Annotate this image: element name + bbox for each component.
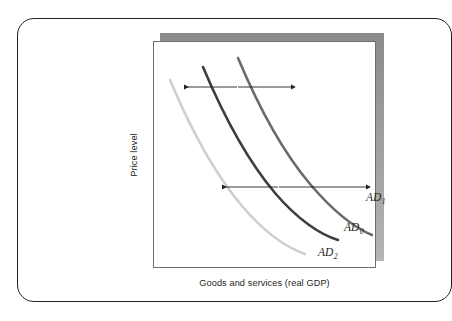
- ad1-label-text: AD: [366, 191, 381, 203]
- ad2-label: AD2: [318, 247, 337, 259]
- ad2-label-text: AD: [318, 246, 333, 258]
- ad1-label: AD1: [366, 192, 385, 204]
- shift-arrow-group: [184, 87, 366, 187]
- ad1-label-subscript: 1: [382, 197, 386, 206]
- y-axis-title: Price level: [126, 112, 142, 198]
- chart-canvas: [153, 41, 376, 268]
- ad2-label-subscript: 2: [334, 252, 338, 261]
- x-axis-title: Goods and services (real GDP): [153, 278, 376, 288]
- ad0-label: AD0: [344, 222, 363, 234]
- y-axis-title-text: Price level: [129, 133, 139, 176]
- ad1-curve: [238, 58, 372, 235]
- ad2-curve: [170, 80, 305, 254]
- ad0-curve: [203, 67, 338, 240]
- ad0-label-subscript: 0: [360, 227, 364, 236]
- ad0-label-text: AD: [344, 221, 359, 233]
